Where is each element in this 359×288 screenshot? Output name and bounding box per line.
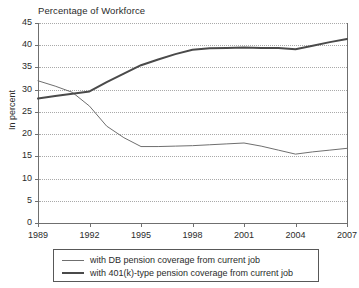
chart-title: Percentage of Workforce xyxy=(38,5,145,16)
x-tick-label: 2001 xyxy=(234,230,254,240)
y-tick-label: 5 xyxy=(6,196,32,205)
chart-legend: with DB pension coverage from current jo… xyxy=(53,249,319,282)
x-tick-label: 1989 xyxy=(28,230,48,240)
series-line-k401 xyxy=(38,39,347,99)
plot-area: 051015202530354045 198919921995199820012… xyxy=(38,23,348,224)
series-layer xyxy=(38,23,348,224)
y-tick-label: 20 xyxy=(6,129,32,138)
y-tick-label: 10 xyxy=(6,174,32,183)
x-tick-label: 1995 xyxy=(131,230,151,240)
y-tick-label: 35 xyxy=(6,62,32,71)
legend-line-401k-icon xyxy=(62,272,84,274)
y-tick-label: 0 xyxy=(6,218,32,227)
legend-label-db: with DB pension coverage from current jo… xyxy=(90,256,260,265)
legend-label-401k: with 401(k)-type pension coverage from c… xyxy=(90,269,293,278)
legend-item-401k: with 401(k)-type pension coverage from c… xyxy=(62,267,318,279)
y-tick-label: 45 xyxy=(6,18,32,27)
x-tick-label: 1998 xyxy=(182,230,202,240)
y-tick-label: 30 xyxy=(6,85,32,94)
legend-item-db: with DB pension coverage from current jo… xyxy=(62,254,318,266)
y-tick-label: 25 xyxy=(6,107,32,116)
x-tick-label: 2007 xyxy=(337,230,357,240)
y-tick-label: 15 xyxy=(6,151,32,160)
y-tick-label: 40 xyxy=(6,40,32,49)
legend-line-db-icon xyxy=(62,260,84,261)
chart-figure: Percentage of Workforce In percent 05101… xyxy=(0,0,359,288)
x-tick-label: 1992 xyxy=(79,230,99,240)
x-tick-label: 2004 xyxy=(285,230,305,240)
